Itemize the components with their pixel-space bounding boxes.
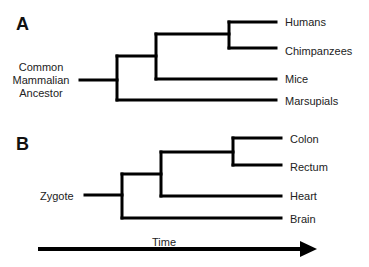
panel-b-tree bbox=[85, 138, 281, 218]
panel-a-root-label-line-2: Mammalian bbox=[13, 74, 70, 86]
leaf-humans: Humans bbox=[285, 16, 326, 28]
arrow-right-icon bbox=[300, 241, 317, 257]
leaf-mice: Mice bbox=[285, 73, 308, 85]
leaf-marsupials: Marsupials bbox=[285, 95, 339, 107]
panel-a-label: A bbox=[16, 14, 29, 34]
leaf-heart: Heart bbox=[290, 190, 317, 202]
panel-b-label: B bbox=[16, 134, 29, 154]
panel-a-root-label-line-1: Common bbox=[19, 61, 64, 73]
panel-a: A Common Mammalian Ancestor bbox=[13, 14, 353, 107]
time-axis: Time bbox=[38, 236, 317, 257]
panel-a-tree bbox=[80, 22, 276, 100]
leaf-rectum: Rectum bbox=[290, 161, 328, 173]
leaf-colon: Colon bbox=[290, 133, 319, 145]
panel-b: B Zygote Colon Rectu bbox=[16, 133, 328, 225]
phylogeny-diagram: A Common Mammalian Ancestor bbox=[0, 0, 369, 267]
time-axis-label: Time bbox=[152, 236, 176, 248]
leaf-chimpanzees: Chimpanzees bbox=[285, 45, 353, 57]
panel-a-root-label-line-3: Ancestor bbox=[19, 87, 63, 99]
panel-b-root-label: Zygote bbox=[40, 190, 74, 202]
leaf-brain: Brain bbox=[290, 213, 316, 225]
